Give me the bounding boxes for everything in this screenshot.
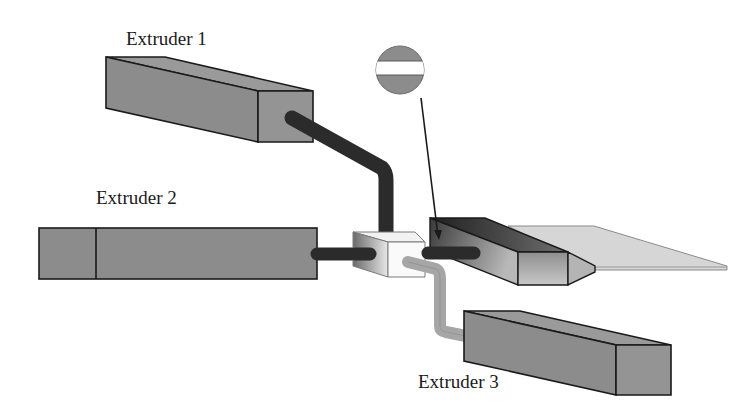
extruder-2-label: Extruder 2 bbox=[96, 187, 177, 208]
extruder-1-label: Extruder 1 bbox=[126, 28, 207, 49]
coextrusion-diagram: Extruder 1 Extruder 2 Extruder 3 bbox=[0, 0, 754, 420]
extruder-3-label: Extruder 3 bbox=[418, 371, 499, 392]
extruder-2 bbox=[39, 228, 317, 279]
layer-cross-section-icon bbox=[374, 46, 426, 94]
extruder-1 bbox=[106, 57, 313, 142]
